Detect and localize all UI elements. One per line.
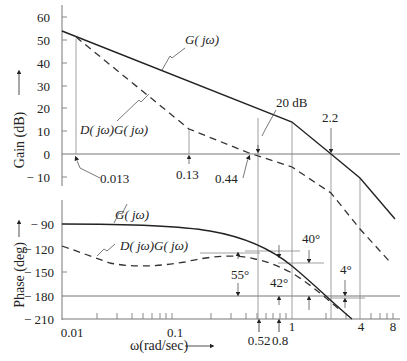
gain-annotations: G( jω) D( jω)G( jω) 0.013 0.13 0.44 20 d… [76,32,338,186]
gain-tick-30: 30 [37,79,50,94]
gain-tick-60: 60 [37,10,50,25]
gain-tick-minus10: − 10 [26,170,50,185]
phase-tick-minus210: − 210 [24,312,54,327]
label-g-gain: G( jω) [185,32,219,47]
gain-tick-10: 10 [37,124,50,139]
annotation-42deg: 42° [270,275,288,290]
annotation-2.2: 2.2 [322,110,338,125]
gain-curve-dg [76,37,390,262]
label-dg-phase: D( jω)G( jω) [119,238,188,253]
x-tick-4: 4 [358,319,365,334]
gain-tick-0: 0 [44,147,51,162]
phase-axis-title: Phase (deg) [12,242,28,308]
gain-axis-title: Gain (dB) [12,111,28,168]
phase-tick-minus150: − 150 [24,265,54,280]
annotation-40deg: 40° [302,231,320,246]
annotation-0.13: 0.13 [176,167,199,182]
x-tick-1: 1 [289,319,296,334]
x-mark-0.52: 0.52 [248,333,271,348]
phase-tick-minus120: − 120 [24,242,54,257]
x-tick-0.01: 0.01 [61,325,84,340]
x-tick-labels: 0.01 0.1 1 4 8 0.52 0.8 [61,319,397,348]
gain-ticks [62,17,67,177]
x-axis-title: ω(rad/sec) [130,338,189,354]
annotation-55deg: 55° [231,267,249,282]
phase-annotations: G( jω) D( jω)G( jω) 55° 42° 40° 4° [97,204,352,310]
annotation-20db: 20 dB [276,95,308,110]
phase-tick-minus180: − 180 [24,289,54,304]
phase-curve-dg [62,246,340,310]
gain-tick-20: 20 [37,101,50,116]
gain-tick-labels: 60 50 40 30 20 10 0 − 10 [26,10,50,185]
label-dg-gain: D( jω)G( jω) [79,122,148,137]
label-g-phase: G( jω) [115,207,149,222]
gain-tick-50: 50 [37,33,50,48]
annotation-0.44: 0.44 [215,171,238,186]
x-mark-0.8: 0.8 [272,333,288,348]
bode-plot: 60 50 40 30 20 10 0 − 10 − 90 − 120 − 15… [0,0,407,361]
x-tick-8: 8 [390,319,397,334]
x-mark-arrows [259,321,279,332]
gain-tick-40: 40 [37,56,50,71]
annotation-4deg: 4° [340,262,352,277]
phase-tick-minus90: − 90 [30,217,54,232]
phase-tick-labels: − 90 − 120 − 150 − 180 − 210 [24,217,54,327]
annotation-0.013: 0.013 [100,171,129,186]
